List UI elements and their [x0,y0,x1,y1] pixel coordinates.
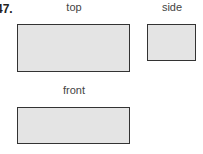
side-view-rectangle [147,24,196,61]
front-view-rectangle [17,107,130,144]
problem-number: 47. [0,2,13,16]
side-view-label: side [152,1,192,13]
top-view-rectangle [17,24,130,72]
top-view-label: top [57,1,91,13]
front-view-label: front [55,84,93,96]
